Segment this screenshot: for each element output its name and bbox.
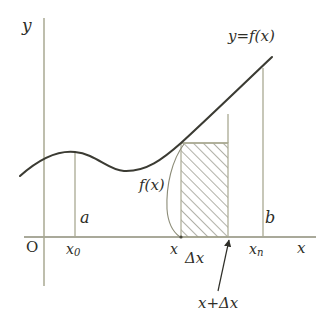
width-annotation: Δx — [185, 251, 204, 266]
right-edge-pointer — [218, 240, 229, 291]
tick-label-xn-base: x — [249, 241, 257, 257]
origin-label: O — [26, 240, 38, 255]
y-axis-label: y — [22, 17, 32, 34]
right-edge-annotation: x+Δx — [198, 296, 238, 311]
hatched-rectangle — [181, 143, 228, 237]
tick-label-xn: xn — [249, 242, 263, 258]
x-axis-label: x — [297, 241, 305, 256]
height-annotation: f(x) — [139, 178, 165, 193]
endpoint-label-a: a — [80, 210, 90, 226]
tick-label-x0-base: x — [66, 241, 74, 257]
function-curve — [20, 57, 272, 176]
endpoint-label-b: b — [265, 210, 275, 226]
tick-label-x: x — [170, 242, 178, 256]
tick-label-xn-subscript: n — [257, 247, 264, 258]
figure-canvas: y y=f(x) a b O x0 x xn x Δx f(x) x+Δx — [0, 0, 331, 329]
tick-label-x0-subscript: 0 — [74, 247, 80, 258]
curve-label: y=f(x) — [228, 29, 275, 44]
tick-label-x0: x0 — [66, 242, 80, 258]
x-base-marker — [179, 235, 182, 238]
diagram-svg — [0, 0, 331, 329]
